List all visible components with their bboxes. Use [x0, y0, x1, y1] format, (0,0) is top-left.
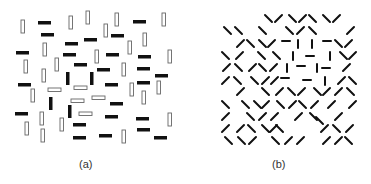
line-segment [273, 52, 280, 59]
line-segment [276, 125, 283, 132]
line-segment [338, 77, 345, 84]
line-segment [222, 113, 229, 120]
line-segment [314, 88, 321, 95]
line-segment [346, 125, 353, 132]
line-segment [323, 15, 330, 22]
line-segment [349, 52, 356, 59]
line-segment [275, 15, 282, 22]
line-segment [297, 137, 304, 144]
line-segment [254, 101, 261, 108]
line-segment [225, 137, 232, 144]
line-segment [345, 137, 352, 144]
line-segment [328, 101, 335, 108]
line-segment [222, 52, 229, 59]
line-segment [349, 101, 356, 108]
line-segment [311, 101, 318, 108]
line-segment [242, 101, 249, 108]
line-segment [289, 101, 296, 108]
line-segment [237, 88, 244, 95]
line-segment [345, 40, 352, 47]
line-segment [259, 113, 266, 120]
line-segment [340, 52, 347, 59]
line-segment [349, 77, 356, 84]
line-segment [259, 40, 266, 47]
line-segment [259, 27, 266, 34]
line-segment [347, 27, 354, 34]
line-segment [347, 88, 354, 95]
line-segment [288, 88, 295, 95]
figure: (a) (b) [0, 0, 371, 184]
line-segment [271, 113, 278, 120]
line-segment [270, 64, 277, 71]
line-segment [321, 125, 328, 132]
line-segment [271, 77, 278, 84]
line-segment [299, 15, 306, 22]
panel-a-label: (a) [79, 158, 92, 170]
line-segment [299, 101, 306, 108]
line-segment [333, 15, 340, 22]
line-segment [238, 137, 245, 144]
panel-b-texture [0, 0, 371, 184]
line-segment [335, 88, 342, 95]
line-segment [309, 15, 316, 22]
panel-b-label: (b) [272, 158, 285, 170]
line-segment [323, 88, 330, 95]
line-segment [235, 64, 242, 71]
line-segment [223, 64, 230, 71]
line-segment [249, 64, 256, 71]
line-segment [247, 40, 254, 47]
line-segment [235, 27, 242, 34]
line-segment [289, 15, 296, 22]
line-segment [268, 40, 275, 47]
line-segment [343, 64, 350, 71]
line-segment [224, 27, 231, 34]
line-segment [333, 125, 340, 132]
line-segment [248, 125, 255, 132]
line-segment [262, 88, 269, 95]
line-segment [277, 101, 284, 108]
line-segment [335, 137, 342, 144]
line-segment [262, 101, 269, 108]
line-segment [335, 113, 342, 120]
line-segment [297, 27, 304, 34]
line-segment [298, 88, 305, 95]
line-segment [265, 15, 272, 22]
line-segment [249, 137, 256, 144]
line-segment [236, 52, 243, 59]
line-segment [258, 52, 265, 59]
line-segment [237, 40, 244, 47]
line-segment [286, 27, 293, 34]
line-segment [276, 88, 283, 95]
line-segment [335, 40, 342, 47]
line-segment [309, 27, 316, 34]
line-segment [323, 137, 330, 144]
line-segment [234, 77, 241, 84]
line-segment [285, 137, 292, 144]
line-segment [222, 101, 229, 108]
line-segment [222, 77, 229, 84]
line-segment [259, 64, 266, 71]
line-segment [222, 125, 229, 132]
line-segment [272, 137, 279, 144]
line-segment [251, 77, 258, 84]
line-segment [262, 125, 269, 132]
line-segment [237, 125, 244, 132]
line-segment [262, 77, 269, 84]
line-segment [295, 113, 302, 120]
line-segment [247, 113, 254, 120]
